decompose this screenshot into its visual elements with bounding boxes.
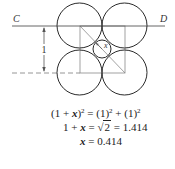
eq2-prefix: 1 +: [63, 121, 80, 133]
label-c: C: [13, 13, 20, 24]
equation-line-1: (1 + x)2 = (1)2 + (1)2: [51, 108, 141, 119]
eq2-equals: =: [86, 121, 98, 133]
eq2-radicand: 2: [103, 120, 111, 133]
eq1-plus: + (1): [113, 107, 138, 119]
eq2-result: = 1.414: [111, 121, 147, 133]
dimension-arrowhead-bottom: [42, 67, 45, 72]
dimension-arrowhead-top: [42, 27, 45, 32]
equation-line-2: 1 + x = √2 = 1.414: [63, 122, 147, 133]
equation-line-3: x = 0.414: [80, 136, 122, 147]
four-circles-diagram: C D 1 x: [0, 0, 175, 105]
eq3-result: = 0.414: [86, 135, 122, 147]
eq1-lhs-base: (1 +: [51, 107, 72, 119]
eq2-sqrt: √2: [97, 122, 111, 133]
label-d: D: [159, 13, 168, 24]
top-left-circle: [57, 3, 102, 48]
label-x: x: [103, 41, 108, 50]
top-right-circle: [102, 3, 147, 48]
bottom-left-circle: [57, 50, 102, 95]
label-dimension-1: 1: [42, 44, 47, 55]
eq1-rhs2-exponent: 2: [137, 107, 141, 115]
eq1-equals: = (1): [85, 107, 110, 119]
